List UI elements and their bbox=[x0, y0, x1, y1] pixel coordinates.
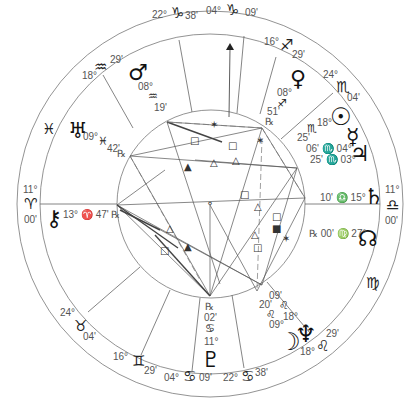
pluto-icon: ♇ bbox=[201, 349, 221, 371]
jupiter-position: 25' ♏ 03° bbox=[310, 155, 356, 165]
north-node-position: ℞ 00' ♍ 27° bbox=[309, 229, 367, 239]
dsc-degree: 11° bbox=[385, 185, 399, 195]
saturn-position: 10' ♎ 15° bbox=[320, 193, 366, 203]
mercury-position: 06' ♏ 04° bbox=[306, 144, 352, 154]
pluto-degree: 11° bbox=[204, 337, 218, 347]
square-icon: □ bbox=[240, 190, 249, 200]
dsc-minute: 00' bbox=[385, 216, 398, 226]
h9-degree: 16° bbox=[264, 37, 279, 47]
aries-icon: ♈ bbox=[24, 197, 37, 212]
mc-degree: 04° bbox=[206, 6, 221, 16]
sextile-icon: ✶ bbox=[282, 234, 290, 244]
uranus-degree: 09° bbox=[83, 132, 98, 142]
capricorn-icon: ♑ bbox=[226, 3, 239, 18]
square-icon: □ bbox=[228, 141, 237, 151]
ic-minute: 09' bbox=[199, 373, 212, 383]
cancer-icon: ♋ bbox=[205, 323, 215, 334]
trine-icon: ▲ bbox=[184, 242, 192, 252]
aspect-lines bbox=[117, 122, 305, 296]
h8-minute: 04' bbox=[347, 93, 360, 103]
sun-minute: 25' bbox=[297, 133, 310, 143]
leo-icon: ♌ bbox=[279, 300, 289, 311]
aquarius-icon: ♒ bbox=[148, 91, 158, 102]
sextile-icon: ✶ bbox=[256, 136, 264, 146]
sun-degree: 18° bbox=[317, 118, 332, 128]
square-icon: □ bbox=[253, 243, 262, 253]
h2-minute: 04' bbox=[83, 332, 96, 342]
uranus-retrograde: ℞ bbox=[117, 149, 126, 159]
h9-minute: 29' bbox=[292, 50, 305, 60]
sextile-icon: ✶ bbox=[210, 120, 218, 130]
center-icon: ⚬ bbox=[206, 199, 214, 209]
leo-icon: ♌ bbox=[316, 339, 329, 354]
trine-icon: △ bbox=[232, 156, 240, 166]
square-icon: □ bbox=[160, 246, 169, 256]
trine-icon: △ bbox=[251, 230, 259, 240]
pluto-retrograde: ℞ bbox=[205, 302, 214, 312]
trine-icon: △ bbox=[210, 158, 218, 168]
h3-minute: 29' bbox=[144, 366, 157, 376]
square-icon: □ bbox=[272, 212, 281, 222]
venus-retrograde: ℞ bbox=[265, 117, 274, 127]
asc-degree: 11° bbox=[23, 185, 37, 195]
square-icon: □ bbox=[190, 136, 199, 146]
trine-icon: △ bbox=[254, 202, 262, 212]
mars-minute: 19' bbox=[154, 103, 167, 113]
trine-icon: △ bbox=[166, 224, 174, 234]
h12-degree: 18° bbox=[82, 71, 97, 81]
asc-minute: 00' bbox=[24, 215, 37, 225]
cancer-icon: ♋ bbox=[183, 369, 196, 384]
libra-icon: ♎ bbox=[386, 198, 399, 213]
ic-degree: 04° bbox=[164, 373, 179, 383]
h2-degree: 24° bbox=[60, 308, 75, 318]
capricorn-icon: ♑ bbox=[171, 6, 184, 21]
mc-minute: 09' bbox=[245, 8, 258, 18]
h12-minute: 29' bbox=[110, 55, 123, 65]
h5-degree: 22° bbox=[223, 373, 238, 383]
virgo-icon: ♍ bbox=[366, 276, 379, 291]
moon-icon: ☽ bbox=[279, 330, 301, 354]
saturn-icon: ♄ bbox=[364, 186, 384, 208]
pisces-icon: ♓ bbox=[42, 122, 55, 137]
square-icon: ■ bbox=[272, 224, 281, 234]
mc-arrow-icon bbox=[226, 43, 234, 50]
venus-icon: ♀ bbox=[290, 68, 306, 90]
h5-minute: 38' bbox=[255, 368, 268, 378]
h11-degree: 22° bbox=[152, 10, 167, 20]
h11-minute: 38' bbox=[185, 11, 198, 21]
cancer-icon: ♋ bbox=[241, 369, 254, 384]
chiron-position: 13° ♈ 47' ℞ bbox=[63, 210, 121, 220]
trine-icon: ▲ bbox=[184, 162, 192, 172]
h3-degree: 16° bbox=[113, 352, 128, 362]
chiron-icon: ⚷ bbox=[46, 208, 62, 230]
h6-degree: 18° bbox=[300, 347, 315, 357]
